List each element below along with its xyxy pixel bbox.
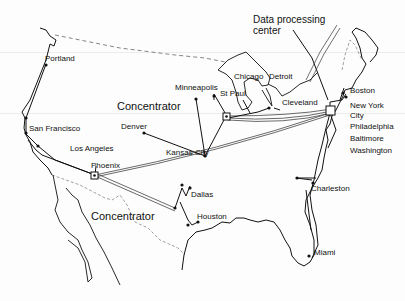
- city-label-cleveland: Cleveland: [282, 99, 318, 107]
- city-label-portland: Portland: [45, 55, 75, 63]
- callout-line-1: Data processing: [253, 14, 325, 25]
- city-label-new-york-city: New York City: [350, 101, 384, 121]
- city-label-phoenix: Phoenix: [91, 162, 120, 170]
- city-label-line: New York: [350, 101, 384, 111]
- callout-data-processing-center: Data processing center: [253, 14, 325, 36]
- city-label-minneapolis: Minneapolis: [175, 84, 218, 92]
- dpc-pointer: [293, 30, 328, 100]
- network-map-diagram: Data processing center Concentrator Conc…: [0, 0, 405, 301]
- city-label-philadelphia: Philadelphia: [350, 123, 394, 131]
- callout-line-2: center: [253, 25, 325, 36]
- city-label-los-angeles: Los Angeles: [70, 145, 114, 153]
- callout-concentrator-north: Concentrator: [117, 101, 181, 112]
- city-label-line: City: [350, 111, 384, 121]
- city-label-dallas: Dallas: [191, 191, 213, 199]
- city-label-denver: Denver: [121, 123, 147, 131]
- lake-michigan: [262, 88, 272, 106]
- city-nodes: [24, 63, 347, 257]
- dpc-link: [310, 28, 340, 82]
- city-label-kansas-city: Kansas City: [166, 149, 209, 157]
- concentrator-box-north: [223, 113, 230, 120]
- city-label-boston: Boston: [350, 87, 375, 95]
- city-label-charleston: Charleston: [311, 185, 350, 193]
- city-label-st-paul: St Paul: [220, 90, 246, 98]
- branch-lines: [26, 64, 346, 258]
- callout-concentrator-south: Concentrator: [91, 211, 155, 222]
- canada-border: [55, 35, 225, 62]
- baja: [53, 175, 92, 282]
- city-label-detroit: Detroit: [269, 73, 293, 81]
- concentrator-box-south: [91, 172, 98, 179]
- city-label-baltimore: Baltimore: [350, 135, 384, 143]
- city-label-houston: Houston: [197, 213, 227, 221]
- city-label-san-francisco: San Francisco: [29, 125, 80, 133]
- data-processing-center-box: [326, 106, 335, 115]
- gulf-coast: [182, 218, 310, 270]
- city-label-chicago: Chicago: [234, 73, 263, 81]
- city-label-washington: Washington: [350, 147, 392, 155]
- city-label-miami: Miami: [314, 249, 335, 257]
